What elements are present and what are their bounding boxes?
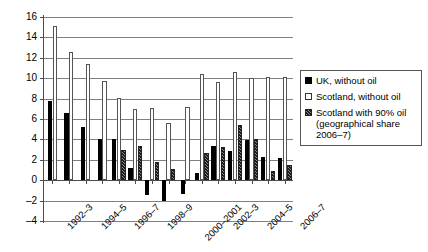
chart-legend: UK, without oil Scotland, without oil Sc…: [300, 70, 422, 146]
bar-scotland_oil: [138, 146, 142, 181]
bar-scotland: [69, 52, 73, 181]
bar-scotland: [216, 82, 220, 180]
bar-uk: [48, 101, 52, 181]
bar-scotland_oil: [238, 125, 242, 180]
bar-scotland_oil: [171, 169, 175, 180]
bar-uk: [98, 139, 102, 180]
x-tick-mark: [218, 180, 219, 184]
bar-uk: [112, 139, 116, 180]
solid-black-swatch-icon: [305, 77, 312, 84]
bar-uk: [278, 158, 282, 180]
bar-uk: [228, 151, 232, 181]
bar-group: [177, 17, 194, 221]
bar-scotland_oil: [204, 153, 208, 181]
y-tick-label: 14: [26, 32, 37, 42]
hatched-grey-swatch-icon: [305, 109, 312, 116]
bar-group: [260, 17, 277, 221]
bar-group: [110, 17, 127, 221]
legend-label-line1: Scotland with 90% oil: [316, 107, 406, 118]
legend-label-line3: 2006–7): [316, 129, 351, 140]
bar-group: [243, 17, 260, 221]
y-tick-label: 8: [31, 94, 37, 104]
bar-uk: [81, 127, 85, 180]
bar-scotland_oil: [121, 150, 125, 181]
legend-item-scotland: Scotland, without oil: [305, 91, 417, 102]
bar-scotland: [200, 74, 204, 180]
open-white-swatch-icon: [305, 93, 312, 100]
bar-uk: [145, 180, 149, 195]
bar-uk: [162, 180, 166, 200]
bar-group: [193, 17, 210, 221]
bar-scotland: [133, 109, 137, 180]
bar-scotland: [150, 108, 154, 180]
bar-uk: [245, 140, 249, 180]
bar-scotland: [53, 26, 57, 180]
y-tick-label: –2: [26, 196, 37, 206]
bar-group: [94, 17, 111, 221]
bar-scotland: [102, 81, 106, 180]
bar-group: [210, 17, 227, 221]
x-tick-mark: [285, 180, 286, 184]
bar-uk: [128, 168, 132, 180]
bar-scotland: [86, 64, 90, 180]
bar-uk: [261, 157, 265, 180]
x-tick-mark: [119, 180, 120, 184]
bar-uk: [64, 113, 68, 180]
bar-scotland: [185, 107, 189, 180]
bar-scotland: [166, 123, 170, 180]
x-tick-mark: [69, 180, 70, 184]
bar-group: [61, 17, 78, 221]
y-tick-label: 6: [31, 114, 37, 124]
y-tick-label: 10: [26, 73, 37, 83]
y-tick-label: –4: [26, 216, 37, 226]
x-tick-mark: [185, 180, 186, 184]
bar-scotland: [249, 78, 253, 180]
y-tick-label: 16: [26, 12, 37, 22]
plot-area: [44, 17, 293, 221]
y-tick-label: 4: [31, 134, 37, 144]
x-tick-mark: [86, 180, 87, 184]
legend-label-scotland: Scotland, without oil: [316, 91, 401, 102]
bar-scotland: [266, 77, 270, 180]
chart-figure: 1614121086420–2–4 1992–31994–51996–71998…: [0, 0, 428, 252]
bar-group: [127, 17, 144, 221]
y-tick-label: 12: [26, 53, 37, 63]
bar-scotland: [117, 98, 121, 181]
y-tick-label: 2: [31, 155, 37, 165]
bar-scotland: [233, 72, 237, 180]
bar-group: [276, 17, 293, 221]
legend-item-uk: UK, without oil: [305, 75, 417, 86]
bar-group: [227, 17, 244, 221]
x-tick-mark: [268, 180, 269, 184]
legend-item-scotland-oil: Scotland with 90% oil (geographical shar…: [305, 107, 417, 140]
x-tick-mark: [152, 180, 153, 184]
bar-scotland_oil: [271, 171, 275, 180]
x-tick-mark: [252, 180, 253, 184]
legend-label-scotland-oil: Scotland with 90% oil (geographical shar…: [316, 107, 406, 140]
x-tick-label: 2006–7: [298, 202, 327, 231]
x-tick-mark: [135, 180, 136, 184]
bar-scotland: [283, 77, 287, 180]
legend-label-line2: (geographical share: [316, 118, 400, 129]
bar-uk: [195, 173, 199, 180]
x-tick-mark: [202, 180, 203, 184]
bar-scotland_oil: [221, 147, 225, 181]
bar-scotland_oil: [254, 139, 258, 180]
bar-group: [44, 17, 61, 221]
bar-uk: [211, 146, 215, 181]
x-tick-mark: [169, 180, 170, 184]
bar-scotland_oil: [287, 165, 291, 180]
x-tick-mark: [235, 180, 236, 184]
bar-group: [160, 17, 177, 221]
y-tick-label: 0: [31, 175, 37, 185]
legend-label-uk: UK, without oil: [316, 75, 377, 86]
bar-scotland_oil: [155, 162, 159, 180]
x-tick-mark: [52, 180, 53, 184]
bar-group: [77, 17, 94, 221]
x-tick-mark: [102, 180, 103, 184]
bar-group: [144, 17, 161, 221]
